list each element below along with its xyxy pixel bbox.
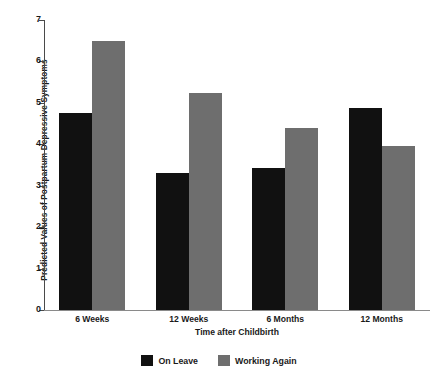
legend-swatch-icon	[218, 355, 230, 366]
y-tick-label: 1	[36, 263, 41, 274]
bar-working-again-12-months	[382, 146, 415, 310]
y-tick-label: 0	[36, 304, 41, 315]
y-axis-line	[44, 20, 45, 311]
bar-working-again-12-weeks	[189, 93, 222, 310]
legend-swatch-icon	[141, 355, 153, 366]
chart-legend: On LeaveWorking Again	[0, 355, 438, 366]
bar-on-leave-12-months	[349, 108, 382, 310]
x-tick-label-12-months: 12 Months	[334, 314, 431, 324]
bar-working-again-6-months	[285, 128, 318, 310]
bar-on-leave-12-weeks	[156, 173, 189, 310]
y-tick-label: 5	[36, 97, 41, 108]
plot-area: 01234567 6 Weeks12 Weeks6 Months12 Month…	[44, 20, 430, 310]
y-tick-label: 3	[36, 180, 41, 191]
legend-item-on-leave: On Leave	[141, 355, 198, 366]
bar-chart: Predicted Values of Postpartum Depressiv…	[0, 0, 438, 379]
x-axis-line	[44, 310, 430, 311]
bar-on-leave-6-weeks	[59, 113, 92, 310]
y-tick-label: 2	[36, 221, 41, 232]
bar-on-leave-6-months	[252, 168, 285, 310]
y-tick-label: 6	[36, 55, 41, 66]
x-tick-label-6-weeks: 6 Weeks	[44, 314, 141, 324]
y-tick-label: 4	[36, 138, 41, 149]
bar-working-again-6-weeks	[92, 41, 125, 310]
legend-item-working-again: Working Again	[218, 355, 297, 366]
x-tick-label-6-months: 6 Months	[237, 314, 334, 324]
y-tick-label: 7	[36, 14, 41, 25]
legend-label: On Leave	[158, 356, 198, 366]
legend-label: Working Again	[235, 356, 297, 366]
x-tick-label-12-weeks: 12 Weeks	[141, 314, 238, 324]
x-axis-title: Time after Childbirth	[44, 327, 430, 337]
